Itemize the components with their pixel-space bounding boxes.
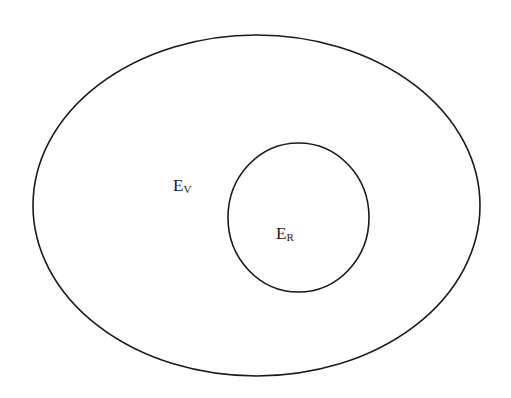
outer-set-label-sub: V (183, 183, 191, 195)
outer-set-label: EV (173, 176, 191, 195)
outer-set-ellipse (33, 35, 480, 376)
inner-set-label: ER (276, 224, 294, 243)
inner-set-circle (228, 143, 369, 292)
inner-set-label-sub: R (286, 231, 294, 243)
inner-set-label-main: E (276, 224, 286, 243)
venn-diagram: EV ER (0, 0, 511, 398)
outer-set-label-main: E (173, 176, 183, 195)
